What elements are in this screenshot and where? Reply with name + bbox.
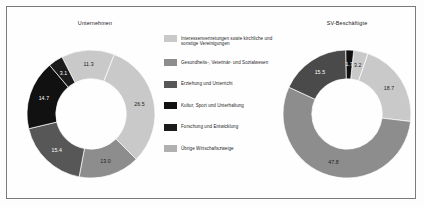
slice-value-label: 14.7 bbox=[39, 95, 50, 101]
donut-chart-sv-beschaeftigte: 3.218.747.815.51.7 bbox=[281, 33, 413, 195]
legend-item[interactable]: Gesundheits-, Veterinär- und Sozialwesen bbox=[164, 59, 282, 68]
legend-item[interactable]: Erziehung und Unterricht bbox=[164, 81, 282, 90]
legend-item[interactable]: Kultur, Sport und Unterhaltung bbox=[164, 102, 282, 111]
donut-right-slices bbox=[283, 50, 411, 178]
figure-frame: Unternehmen SV-Beschäftigte 11.326.513.0… bbox=[6, 6, 416, 199]
chart-legend: Interessenvertretungen sowie kirchliche … bbox=[164, 35, 282, 167]
legend-item[interactable]: Interessenvertretungen sowie kirchliche … bbox=[164, 35, 282, 47]
legend-item[interactable]: Übrige Wirtschaftszweige bbox=[164, 145, 282, 154]
legend-swatch-icon bbox=[164, 102, 177, 109]
slice-value-label: 1.7 bbox=[345, 61, 353, 67]
donut-left-slices bbox=[27, 50, 155, 178]
chart-title-left: Unternehmen bbox=[25, 20, 165, 26]
slice-value-label: 13.0 bbox=[100, 158, 111, 164]
legend-item-label: Übrige Wirtschaftszweige bbox=[181, 145, 234, 151]
slice-value-label: 11.3 bbox=[84, 61, 94, 67]
legend-swatch-icon bbox=[164, 59, 177, 66]
donut-chart-unternehmen: 11.326.513.015.414.73.1 bbox=[25, 33, 157, 195]
legend-item[interactable]: Forschung und Entwicklung bbox=[164, 124, 282, 133]
chart-title-right: SV-Beschäftigte bbox=[279, 20, 415, 26]
legend-swatch-icon bbox=[164, 81, 177, 88]
legend-swatch-icon bbox=[164, 35, 177, 42]
donut-left-svg: 11.326.513.015.414.73.1 bbox=[25, 33, 157, 195]
slice-value-label: 26.5 bbox=[134, 101, 145, 107]
legend-item-label: Kultur, Sport und Unterhaltung bbox=[181, 102, 244, 108]
legend-item-label: Forschung und Entwicklung bbox=[181, 124, 238, 130]
slice-value-label: 15.5 bbox=[315, 69, 326, 75]
screenshot-root: Unternehmen SV-Beschäftigte 11.326.513.0… bbox=[0, 0, 424, 207]
slice-value-label: 18.7 bbox=[384, 85, 395, 91]
slice-value-label: 15.4 bbox=[51, 147, 62, 153]
legend-item-label: Interessenvertretungen sowie kirchliche … bbox=[181, 35, 282, 47]
legend-swatch-icon bbox=[164, 124, 177, 131]
legend-swatch-icon bbox=[164, 145, 177, 152]
slice-value-label: 47.8 bbox=[328, 159, 339, 165]
slice-value-label: 3.2 bbox=[354, 62, 362, 68]
legend-item-label: Gesundheits-, Veterinär- und Sozialwesen bbox=[181, 59, 268, 65]
slice-value-label: 3.1 bbox=[60, 70, 68, 76]
legend-item-label: Erziehung und Unterricht bbox=[181, 81, 233, 87]
donut-right-svg: 3.218.747.815.51.7 bbox=[281, 33, 413, 195]
